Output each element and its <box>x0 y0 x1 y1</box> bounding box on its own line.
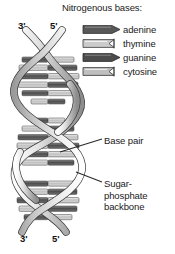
guanine-swatch <box>82 52 122 63</box>
strand-label-top-right: 5' <box>50 20 58 31</box>
base-pair-leader <box>60 139 102 152</box>
cytosine-swatch <box>82 66 122 77</box>
callout-base-pair: Base pair <box>104 135 143 147</box>
backbone-leader <box>76 172 102 182</box>
legend-item-cytosine[interactable]: cytosine <box>82 64 157 78</box>
dna-diagram-canvas: Nitrogenous bases: adenine thymine <box>0 0 175 254</box>
legend-label-thymine: thymine <box>123 38 156 49</box>
strand-label-top-left: 3' <box>18 20 26 31</box>
callout-backbone-line-3: backbone <box>104 201 147 213</box>
callout-backbone-line-1: Sugar- <box>104 178 147 190</box>
legend-item-thymine[interactable]: thymine <box>82 36 157 50</box>
callout-backbone-line-2: phosphate <box>104 190 147 202</box>
callout-sugar-phosphate-backbone: Sugar- phosphate backbone <box>104 178 147 213</box>
legend: adenine thymine guanine <box>82 22 157 78</box>
adenine-swatch <box>82 24 122 35</box>
legend-label-cytosine: cytosine <box>123 66 157 77</box>
strand-label-bottom-left: 3' <box>20 233 28 244</box>
legend-label-guanine: guanine <box>123 52 156 63</box>
legend-item-guanine[interactable]: guanine <box>82 50 157 64</box>
legend-label-adenine: adenine <box>123 24 156 35</box>
thymine-swatch <box>82 38 122 49</box>
legend-item-adenine[interactable]: adenine <box>82 22 157 36</box>
legend-title: Nitrogenous bases: <box>62 2 142 13</box>
strand-label-bottom-right: 5' <box>52 233 60 244</box>
